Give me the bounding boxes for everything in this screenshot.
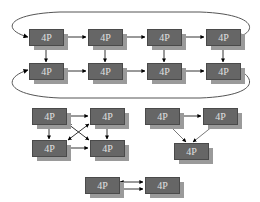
- node-m1: 4P: [32, 108, 66, 124]
- node-a1: 4P: [29, 29, 63, 45]
- node-p1: 4P: [85, 177, 119, 193]
- node-label: 4P: [32, 108, 67, 125]
- torus-edges: [46, 37, 223, 71]
- node-label: 4P: [85, 177, 120, 194]
- node-a4: 4P: [206, 29, 240, 45]
- node-a3: 4P: [147, 29, 181, 45]
- node-m2: 4P: [90, 108, 124, 124]
- node-label: 4P: [147, 29, 182, 46]
- diagram-canvas: 4P 4P 4P 4P 4P 4P 4P 4P 4P 4P 4P 4P 4P 4…: [0, 0, 260, 202]
- node-t2: 4P: [203, 108, 237, 124]
- node-label: 4P: [206, 29, 241, 46]
- node-label: 4P: [203, 108, 238, 125]
- node-label: 4P: [29, 29, 64, 46]
- node-b2: 4P: [88, 63, 122, 79]
- node-label: 4P: [206, 63, 241, 80]
- node-label: 4P: [174, 143, 209, 160]
- node-label: 4P: [147, 63, 182, 80]
- node-label: 4P: [88, 29, 123, 46]
- node-a2: 4P: [88, 29, 122, 45]
- node-t3: 4P: [174, 143, 208, 159]
- node-label: 4P: [32, 140, 67, 157]
- node-p2: 4P: [145, 177, 179, 193]
- node-label: 4P: [90, 140, 125, 157]
- node-label: 4P: [145, 108, 180, 125]
- node-label: 4P: [145, 177, 180, 194]
- node-label: 4P: [29, 63, 64, 80]
- node-b3: 4P: [147, 63, 181, 79]
- node-b4: 4P: [206, 63, 240, 79]
- node-t1: 4P: [145, 108, 179, 124]
- node-b1: 4P: [29, 63, 63, 79]
- node-m4: 4P: [90, 140, 124, 156]
- node-label: 4P: [90, 108, 125, 125]
- node-label: 4P: [88, 63, 123, 80]
- node-m3: 4P: [32, 140, 66, 156]
